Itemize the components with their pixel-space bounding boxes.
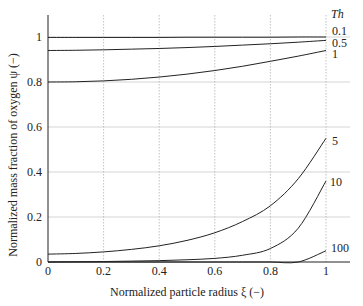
y-tick-label: 0.2 <box>27 210 42 224</box>
series-label: 1 <box>332 47 338 61</box>
y-tick-label: 0.4 <box>27 165 42 179</box>
series-label: 10 <box>330 175 342 189</box>
axes <box>48 15 350 262</box>
series-line-th-0-5 <box>48 40 326 50</box>
data-series <box>48 37 326 263</box>
series-labels: 0.10.51510100 <box>330 24 349 255</box>
series-label: 100 <box>331 241 349 255</box>
grid-lines <box>48 15 350 262</box>
x-axis-label: Normalized particle radius ξ (−) <box>110 285 264 299</box>
x-tick-label: 0.2 <box>96 264 111 278</box>
series-line-th-1 <box>48 51 326 83</box>
y-tick-label: 0.8 <box>27 75 42 89</box>
legend-title: Th <box>331 7 344 21</box>
line-chart: 00.20.40.60.8100.20.40.60.81 0.10.515101… <box>0 0 363 306</box>
x-tick-label: 0.6 <box>207 264 222 278</box>
x-tick-label: 0.4 <box>152 264 167 278</box>
x-tick-label: 0.8 <box>263 264 278 278</box>
series-label: 5 <box>332 134 338 148</box>
y-tick-label: 0 <box>36 255 42 269</box>
x-tick-label: 1 <box>323 264 329 278</box>
x-tick-label: 0 <box>45 264 51 278</box>
y-tick-label: 1 <box>36 30 42 44</box>
y-axis-label: Normalized mass fraction of oxygen ψ (−) <box>6 53 20 257</box>
y-tick-label: 0.6 <box>27 120 42 134</box>
series-line-th-5 <box>48 138 326 254</box>
